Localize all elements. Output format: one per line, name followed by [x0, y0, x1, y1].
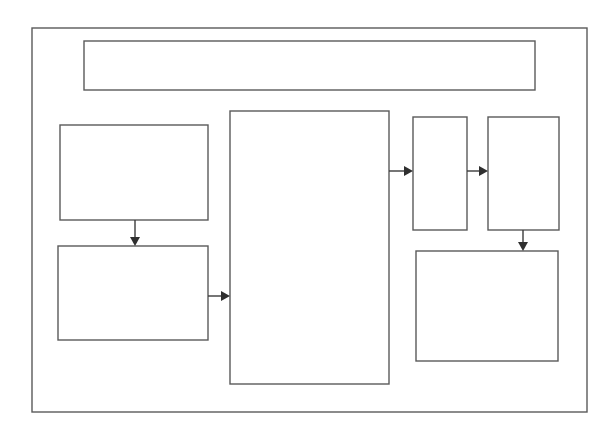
node-right-top[interactable] — [488, 117, 559, 230]
node-left-top[interactable] — [60, 125, 208, 220]
node-left-bottom[interactable] — [58, 246, 208, 340]
node-center[interactable] — [230, 111, 389, 384]
block-diagram — [0, 0, 612, 435]
node-narrow[interactable] — [413, 117, 467, 230]
node-right-bottom[interactable] — [416, 251, 558, 361]
node-banner[interactable] — [84, 41, 535, 90]
